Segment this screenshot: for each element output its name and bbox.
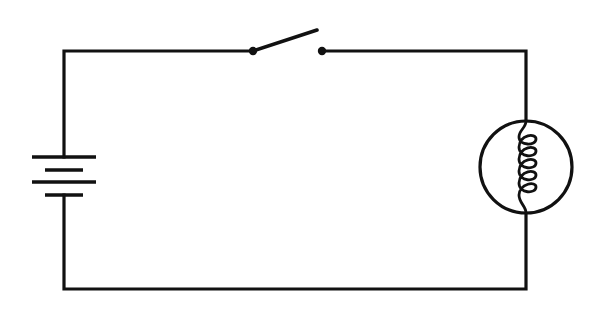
wires: [64, 51, 526, 289]
battery-icon: [32, 157, 96, 195]
circuit-diagram: Simple series circuit: [0, 0, 608, 311]
lamp-icon: [480, 121, 572, 213]
open-switch-icon: [249, 30, 326, 55]
wire-battery-to-switch: [64, 51, 253, 157]
wire-switch-to-lamp: [322, 51, 526, 121]
wire-lamp-to-battery: [64, 195, 526, 289]
